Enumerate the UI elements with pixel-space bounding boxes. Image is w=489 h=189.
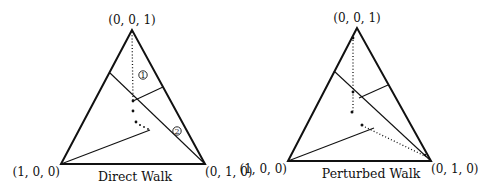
partition-line-upper (359, 85, 388, 98)
walk-point (139, 124, 141, 126)
partition-line-upper (133, 87, 163, 101)
walk-point (361, 124, 364, 127)
region-2-label: 2 (173, 127, 181, 136)
walk-point (143, 126, 145, 128)
walk-path-vertical (132, 32, 133, 100)
partition-line-lower (288, 128, 374, 161)
walk-point (147, 128, 149, 130)
walk-point (135, 121, 138, 124)
partition-line-diagonal (334, 71, 431, 161)
perturbed-walk-figure: (0, 0, 1) (1, 0, 0) (0, 1, 0) Perturbed … (239, 11, 478, 181)
walk-point (132, 100, 135, 103)
svg-text:1: 1 (140, 71, 145, 80)
partition-line-diagonal (110, 73, 205, 164)
region-1-label: 1 (139, 71, 147, 80)
vertex-label-top: (0, 0, 1) (108, 13, 156, 27)
vertex-label-left: (1, 0, 0) (239, 162, 287, 176)
walk-point (424, 154, 426, 156)
simplex-diagrams: 1 2 (0, 0, 1) (1, 0, 0) (0, 1, 0) Direct… (0, 0, 489, 189)
svg-text:2: 2 (174, 127, 179, 136)
vertex-label-right: (0, 1, 0) (431, 162, 479, 176)
walk-point (351, 111, 354, 114)
vertex-label-left: (1, 0, 0) (12, 165, 60, 179)
partition-line-lower (61, 130, 150, 164)
figure-caption: Perturbed Walk (322, 166, 421, 181)
walk-point (352, 91, 355, 94)
walk-point (132, 110, 135, 113)
vertex-label-top: (0, 0, 1) (333, 11, 381, 25)
direct-walk-figure: 1 2 (0, 0, 1) (1, 0, 0) (0, 1, 0) Direct… (12, 13, 252, 184)
figure-caption: Direct Walk (98, 169, 173, 184)
walk-path-diagonal (365, 127, 427, 157)
walk-point (352, 37, 355, 40)
